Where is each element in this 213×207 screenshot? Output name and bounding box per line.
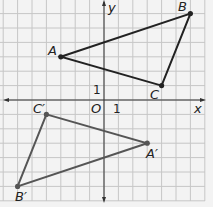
label-c-prime: C′ bbox=[33, 101, 45, 116]
label-b-prime: B′ bbox=[15, 189, 27, 204]
vertex-point bbox=[188, 11, 193, 16]
vertex-point bbox=[159, 83, 164, 88]
y-axis-label: y bbox=[107, 0, 116, 15]
label-c: C bbox=[150, 87, 160, 102]
x-axis-label: x bbox=[193, 101, 202, 116]
vertex-point bbox=[58, 54, 63, 59]
y-tick-label-1: 1 bbox=[93, 83, 101, 97]
label-a: A bbox=[47, 43, 57, 58]
coordinate-grid: y x O 1 1 A B C A′ B′ C′ bbox=[0, 0, 213, 207]
label-b: B bbox=[178, 0, 187, 14]
x-tick-label-1: 1 bbox=[113, 102, 121, 116]
label-a-prime: A′ bbox=[145, 146, 158, 161]
origin-label: O bbox=[91, 101, 101, 116]
